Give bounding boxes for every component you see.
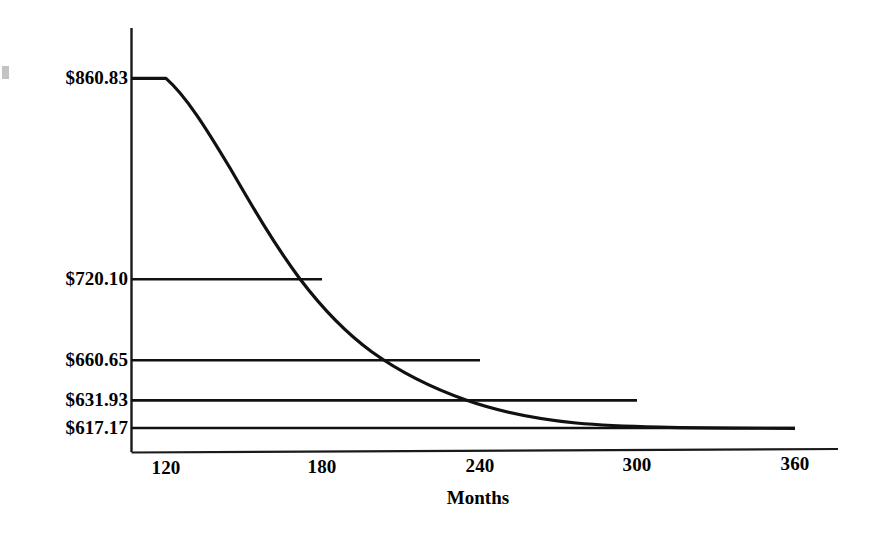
value-label-660-65: $660.65	[66, 349, 128, 371]
value-label-631-93: $631.93	[66, 389, 128, 411]
x-tick-label-300: 300	[622, 454, 651, 476]
chart-plot-area	[0, 0, 875, 536]
value-label-617-17: $617.17	[66, 417, 128, 439]
value-label-860-83: $860.83	[66, 67, 128, 89]
x-tick-label-120: 120	[151, 457, 180, 479]
chart-container: $860.83 $720.10 $660.65 $631.93 $617.17 …	[0, 0, 875, 536]
value-label-720-10: $720.10	[66, 268, 128, 290]
x-tick-label-240: 240	[465, 455, 494, 477]
x-tick-label-180: 180	[307, 456, 336, 478]
x-axis-line	[132, 449, 839, 453]
x-axis-title: Months	[447, 487, 509, 509]
x-tick-label-360: 360	[780, 453, 809, 475]
payment-decay-curve	[131, 78, 795, 428]
